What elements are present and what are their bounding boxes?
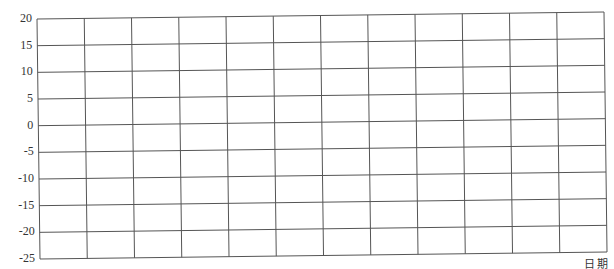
y-tick-label: 15 (2, 39, 32, 51)
grid-line (462, 14, 465, 254)
y-tick-label: -10 (4, 172, 34, 184)
chart-grid (0, 0, 614, 269)
grid-line (179, 17, 182, 257)
grid-line (226, 17, 229, 257)
grid-line (557, 13, 560, 253)
y-tick-label: 0 (3, 119, 33, 131)
y-tick-label: -20 (5, 225, 35, 237)
y-tick-label: -5 (4, 145, 34, 157)
grid-line (368, 15, 371, 255)
y-tick-label: 20 (2, 12, 32, 24)
x-axis-label: 日期 (584, 255, 610, 269)
grid-line (273, 16, 276, 256)
y-tick-label: -15 (4, 199, 34, 211)
y-tick-label: 10 (3, 65, 33, 77)
y-tick-label: 5 (3, 92, 33, 104)
grid-line (510, 13, 513, 253)
y-tick-label: -25 (5, 252, 35, 264)
grid-line (132, 18, 135, 258)
blank-grid-chart: 20151050-5-10-15-20-25 日期 (0, 0, 614, 269)
grid-line (321, 16, 324, 256)
grid-line (37, 19, 40, 259)
grid-line (415, 14, 418, 254)
grid-line (84, 18, 87, 258)
grid-line (604, 12, 607, 252)
